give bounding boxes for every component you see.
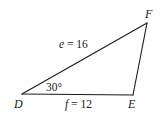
vertex-label-d: D [13,97,23,111]
triangle-diagram: F D E e = 16 30° f = 12 [0,0,162,122]
side-label-e-value: = 16 [64,38,88,50]
side-label-f-value: = 12 [68,98,92,110]
vertex-label-e: E [127,97,136,111]
vertex-label-f: F [144,7,153,21]
side-ef [133,23,147,95]
side-de [22,94,133,95]
side-label-f: f = 12 [65,98,92,111]
side-label-e: e = 16 [59,38,88,50]
angle-label-d: 30° [46,81,63,93]
side-df [22,23,147,94]
